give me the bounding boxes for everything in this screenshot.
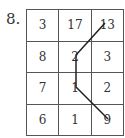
grid-cell: 2 [59, 42, 91, 74]
grid-cell: 3 [27, 10, 59, 42]
grid-cell: 13 [92, 10, 124, 42]
grid-cell: 17 [59, 10, 91, 42]
number-grid: 3 17 13 8 2 3 7 1 2 6 1 9 [26, 9, 124, 136]
problem-number: 8. [6, 10, 20, 28]
grid-cell: 8 [27, 42, 59, 74]
grid-cell: 2 [92, 73, 124, 105]
grid-cell: 1 [59, 105, 91, 137]
grid-cell: 6 [27, 105, 59, 137]
grid-cell: 3 [92, 42, 124, 74]
grid-cell: 9 [92, 105, 124, 137]
grid-cell: 1 [59, 73, 91, 105]
grid-cell: 7 [27, 73, 59, 105]
